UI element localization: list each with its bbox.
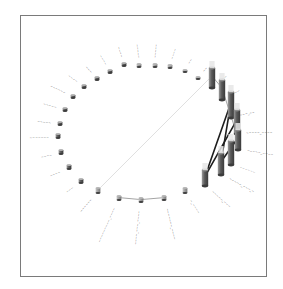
node-label: ~~~~~~~ [30, 135, 50, 140]
node-cylinder[interactable] [219, 73, 225, 101]
node-label: ~~~~~ [37, 119, 51, 125]
node-label: ~~~ [65, 186, 74, 194]
node-cylinder[interactable] [228, 134, 234, 166]
node-label: ~~ [187, 58, 193, 65]
node-label: ~~~~ [170, 48, 177, 60]
node-label: ~~~~ [41, 153, 53, 159]
node-cylinder[interactable] [139, 197, 144, 203]
node-cylinder[interactable] [82, 84, 87, 89]
node-label: ~~~~~ [43, 102, 58, 110]
node-cylinder[interactable] [117, 195, 122, 201]
node-label: ~~~~ [99, 54, 108, 66]
node-cylinder[interactable] [168, 64, 173, 69]
node-cylinder[interactable] [162, 195, 167, 201]
node-label: ~~ [202, 66, 209, 73]
node-label: ~~~~~~ [79, 198, 93, 213]
node-cylinder[interactable] [108, 69, 113, 74]
node-label: ~~~~~_~~~_~ [228, 177, 255, 194]
node-label: ~~~~_~~~_~~~~ [134, 210, 142, 244]
node-label: ~~~~ [116, 46, 123, 58]
node-label: ~~~~~_~~~~ [246, 131, 273, 135]
node-label: ~~~~~~~~~_~~~~ [97, 207, 116, 243]
node-cylinder[interactable] [137, 63, 142, 68]
node-cylinder[interactable] [183, 69, 188, 73]
node-label: ~~~ [85, 65, 94, 74]
node-label: ~~~~ [67, 74, 78, 84]
node-cylinder[interactable] [153, 63, 158, 68]
node-cylinder[interactable] [122, 62, 127, 67]
node-cylinder[interactable] [71, 94, 76, 99]
edge [98, 76, 212, 190]
node-cylinder[interactable] [209, 61, 215, 89]
edge-layer [98, 76, 238, 200]
node-label: ~_~~~~ [189, 199, 201, 214]
node-cylinder[interactable] [96, 187, 101, 194]
node-cylinder[interactable] [183, 187, 188, 194]
network-diagram: ~~~~~~~~~~~~~~~~~~~~~~~_~~~~~~~~~_~~~~~~… [0, 0, 283, 289]
node-cylinder[interactable] [228, 85, 234, 119]
node-label: ~~~~~ [135, 44, 141, 58]
edge [119, 198, 141, 200]
node-cylinder[interactable] [59, 149, 64, 155]
node-label: ~~~~~~ [239, 165, 256, 174]
edge [141, 198, 164, 200]
node-label: ~~~_~~ [239, 110, 255, 117]
node-cylinder[interactable] [235, 123, 241, 151]
node-cylinder[interactable] [58, 121, 63, 126]
node-cylinder[interactable] [56, 133, 61, 139]
node-label: ~~~~~_~~~ [211, 190, 232, 209]
node-layer [56, 61, 242, 203]
node-cylinder[interactable] [218, 146, 224, 176]
node-label: ~~~~~ [153, 44, 158, 58]
node-label: ~~~~~~ [50, 84, 67, 95]
node-cylinder[interactable] [196, 76, 201, 80]
node-cylinder[interactable] [95, 76, 100, 81]
node-cylinder[interactable] [67, 164, 72, 170]
node-cylinder[interactable] [79, 178, 84, 184]
node-label: ~~~~~_~~~~ [247, 149, 274, 157]
node-label: ~~~~~~~_~~~~ [165, 208, 177, 240]
node-label: ~~~~ [49, 170, 61, 178]
node-cylinder[interactable] [63, 107, 68, 112]
node-cylinder[interactable] [202, 163, 208, 187]
